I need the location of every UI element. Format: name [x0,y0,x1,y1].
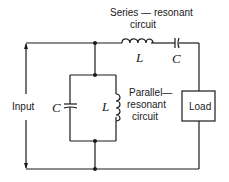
inductor-coil-icon [122,39,153,43]
load-box: Load [182,91,215,121]
input-terminal: Input [12,43,34,169]
input-label: Input [12,101,34,112]
parallel-inductor-label: L [101,99,109,114]
series-inductor-label: L [135,50,143,65]
parallel-resonant-circuit: C L [52,75,120,141]
parallel-title-line2: resonant [127,99,166,110]
series-title-line2: circuit [130,19,156,30]
parallel-inductor-coil-icon [116,94,120,121]
parallel-capacitor-label: C [52,100,61,115]
series-title-line1: Series — resonant [110,7,193,18]
series-capacitor-label: C [172,51,181,66]
input-arrow-up-icon [24,43,28,49]
parallel-title-line3: circuit [132,111,158,122]
load-label: Load [189,101,211,112]
input-arrow-down-icon [24,163,28,169]
series-inductor: L [122,39,153,65]
circuit-diagram: Input L C Series — resonant circuit Load [0,0,229,182]
series-capacitor: C [172,38,181,66]
parallel-title-line1: Parallel— [129,87,172,98]
capacitor-plate-curved-icon [178,38,179,48]
